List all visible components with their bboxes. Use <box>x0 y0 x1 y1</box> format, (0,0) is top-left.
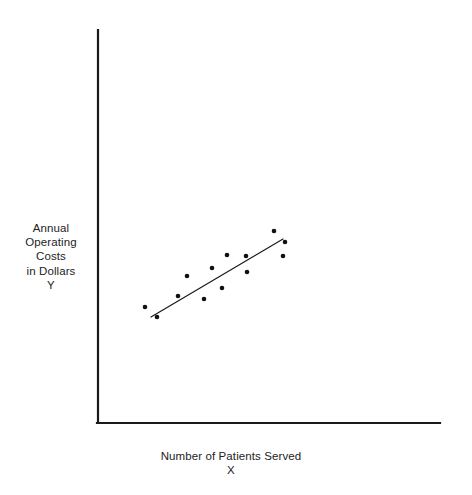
data-points-group <box>143 229 288 320</box>
x-axis-label: Number of Patients Served X <box>140 449 322 477</box>
data-point <box>281 254 286 259</box>
axes-group <box>97 30 440 423</box>
data-point <box>244 254 249 259</box>
scatter-plot-figure: Annual Operating Costs in Dollars Y Numb… <box>0 0 472 495</box>
data-point <box>143 305 148 310</box>
data-point <box>220 286 225 291</box>
data-point <box>210 266 215 271</box>
data-point <box>225 253 230 258</box>
y-axis-label: Annual Operating Costs in Dollars Y <box>12 221 90 292</box>
data-point <box>202 297 207 302</box>
trendline-group <box>151 239 283 317</box>
data-point <box>272 229 277 234</box>
data-point <box>155 315 160 320</box>
data-point <box>176 294 181 299</box>
data-point <box>185 274 190 279</box>
data-point <box>283 240 288 245</box>
regression-line <box>151 239 283 317</box>
data-point <box>245 270 250 275</box>
